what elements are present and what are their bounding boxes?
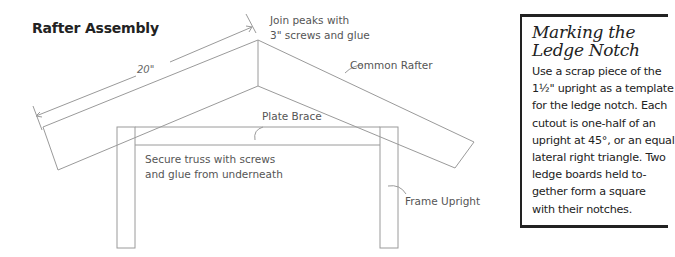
secure-truss-line1: Secure truss with screws: [145, 152, 283, 167]
left-frame-upright: [117, 127, 135, 248]
sidebar-title-line2: Ledge Notch: [532, 41, 668, 59]
join-peaks-label: Join peaks with 3" screws and glue: [270, 13, 370, 43]
sidebar-title-line1: Marking the: [532, 23, 668, 41]
left-rafter: [43, 40, 258, 170]
dimension-label: 20": [137, 64, 154, 75]
secure-truss-line2: and glue from underneath: [145, 167, 283, 182]
join-peaks-line1: Join peaks with: [270, 13, 370, 28]
join-peaks-line2: 3" screws and glue: [270, 28, 370, 43]
plate-brace-label: Plate Brace: [262, 109, 322, 124]
frame-upright-label: Frame Upright: [405, 194, 480, 209]
common-rafter-label: Common Rafter: [350, 58, 433, 73]
secure-truss-label: Secure truss with screws and glue from u…: [145, 152, 283, 182]
sidebar-body: Use a scrap piece of the 1½" upright as …: [532, 63, 668, 218]
sidebar-box: Marking the Ledge Notch Use a scrap piec…: [520, 14, 668, 228]
sidebar-title: Marking the Ledge Notch: [532, 23, 668, 59]
right-frame-upright: [380, 127, 398, 248]
